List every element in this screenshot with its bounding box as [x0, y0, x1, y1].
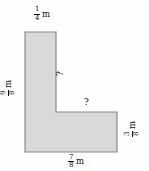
- fraction-top: 1 4: [34, 6, 40, 22]
- fraction-denominator: 8: [133, 131, 140, 137]
- fraction-denominator: 8: [68, 162, 74, 169]
- l-shape-polygon: [25, 32, 117, 152]
- geometry-figure: 1 4 m 9 8 m 7 8 m 3 8 m ? ?: [0, 0, 149, 171]
- unit-label-right: m: [128, 121, 137, 129]
- fraction-numerator: 3: [124, 131, 131, 137]
- fraction-bottom: 7 8: [68, 154, 74, 170]
- fraction-denominator: 4: [34, 15, 40, 22]
- unit-label-left: m: [4, 80, 13, 88]
- fraction-numerator: 7: [68, 154, 74, 161]
- fraction-denominator: 8: [9, 90, 16, 96]
- fraction-right: 3 8: [124, 131, 140, 137]
- fraction-numerator: 1: [34, 6, 40, 13]
- unit-label-bottom: m: [76, 157, 84, 166]
- fraction-left: 9 8: [0, 90, 16, 96]
- dimension-label-top: 1 4 m: [22, 4, 62, 24]
- dimension-label-right: 3 8 m: [122, 109, 142, 149]
- dimension-label-left: 9 8 m: [0, 68, 18, 108]
- unit-label-top: m: [42, 10, 50, 19]
- unknown-dimension-horizontal: ?: [84, 98, 94, 110]
- dimension-label-bottom: 7 8 m: [56, 153, 96, 170]
- unknown-dimension-vertical: ?: [56, 66, 68, 76]
- fraction-numerator: 9: [0, 90, 7, 96]
